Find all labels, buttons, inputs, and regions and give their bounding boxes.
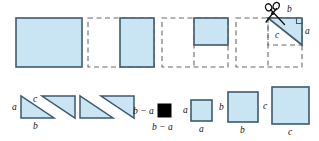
- pythagorean-dissection-figure: b a c a c b b − a b − a a a b b: [0, 0, 319, 141]
- square-a-shape: [191, 100, 212, 121]
- label-cut-hypotenuse: c: [275, 30, 280, 40]
- square-c-shape: [272, 87, 309, 124]
- rect-full: [16, 18, 82, 67]
- square-a-bottom-label: a: [199, 124, 204, 134]
- square-b-left-label: b: [219, 102, 224, 112]
- square-b-minus-a: b − a b − a: [133, 104, 173, 132]
- triangle-1-label-horizontal: b: [33, 121, 38, 131]
- rect-square-b: [120, 18, 154, 67]
- square-c-bottom-label: c: [288, 127, 293, 137]
- square-b-minus-a-left-label: b − a: [133, 106, 154, 116]
- panel-1-full-rectangle: [16, 18, 82, 67]
- square-a: a a: [183, 100, 212, 134]
- square-b-bottom-label: b: [240, 125, 245, 135]
- panel-4-triangle-cut: b a c: [236, 2, 310, 67]
- label-cut-top-leg: b: [287, 4, 292, 14]
- triangle-1-label-vertical: a: [12, 102, 17, 112]
- square-b-minus-a-bottom-label: b − a: [152, 122, 173, 132]
- square-c: c c: [263, 87, 309, 137]
- square-a-left-label: a: [183, 105, 188, 115]
- label-cut-right-leg: a: [305, 26, 310, 36]
- rect-top-right: [194, 18, 228, 45]
- square-c-left-label: c: [263, 101, 268, 111]
- square-b-minus-a-shape: [158, 104, 171, 117]
- square-b-shape: [228, 92, 258, 122]
- panel-3-rect-top-right: [162, 18, 228, 67]
- triangle-1-label-hypotenuse: c: [33, 94, 38, 104]
- square-b: b b: [219, 92, 258, 135]
- panel-2-square-b: [88, 18, 154, 67]
